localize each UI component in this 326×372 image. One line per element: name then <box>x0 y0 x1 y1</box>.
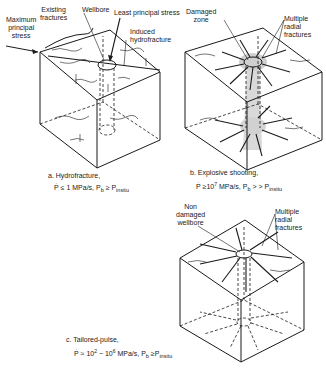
cube-b <box>185 20 322 170</box>
caption-c-title: c. Tailored-pulse, <box>66 335 119 344</box>
label-existing-fractures: Existing fractures <box>40 6 67 22</box>
caption-b-formula: Ṗ ≥107 MPa/s, Pb > > Pinsitu <box>196 180 282 194</box>
label-multiple-radial-fractures-c: Multiple radial fractures <box>275 208 302 232</box>
caption-a-title: a. Hydrofracture, <box>48 171 100 180</box>
label-least-principal-stress: Least principal stress <box>114 9 180 17</box>
label-multiple-radial-fractures-b: Multiple radial fractures <box>284 15 311 39</box>
label-wellbore: Wellbore <box>82 6 110 14</box>
label-maximum-principal-stress: Maximum principal stress <box>6 16 36 40</box>
label-non-damaged-wellbore: Non damaged wellbore <box>176 203 205 227</box>
caption-c-formula: Ṗ ≈ 102 − 106 MPa/s, Pb ≥Pinsitu <box>74 347 172 361</box>
caption-b-title: b. Explosive shooting, <box>190 168 258 177</box>
caption-a-formula: Ṗ ≤ 1 MPa/s, Pb ≥ Pinsitu <box>54 183 129 195</box>
label-induced-hydrofracture: Induced hydrofracture <box>130 28 171 44</box>
label-damaged-zone: Damaged zone <box>186 8 216 24</box>
cube-c <box>180 214 304 362</box>
